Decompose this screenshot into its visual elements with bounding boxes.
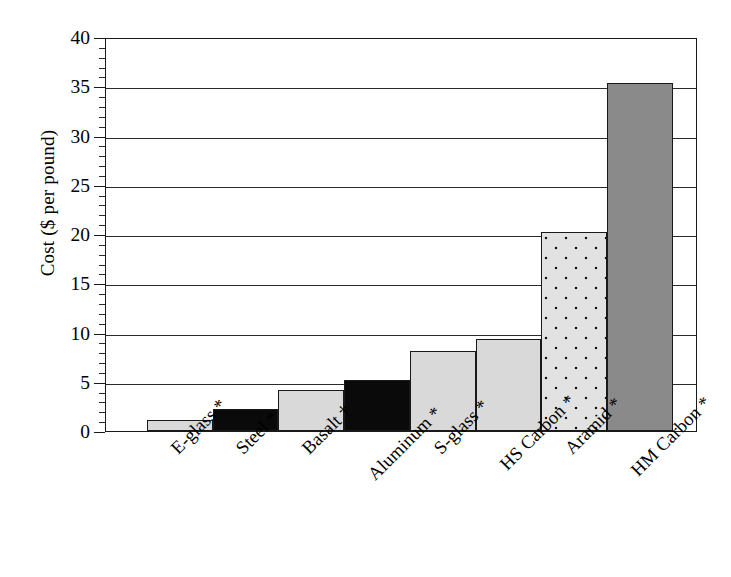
y-tick-major bbox=[94, 334, 105, 335]
y-tick-major bbox=[94, 432, 105, 433]
y-tick-major bbox=[94, 137, 105, 138]
y-tick-label: 0 bbox=[44, 422, 90, 442]
y-tick-label: 20 bbox=[44, 225, 90, 245]
bar bbox=[213, 409, 279, 431]
y-tick-label: 15 bbox=[44, 274, 90, 294]
bar bbox=[541, 232, 607, 431]
y-tick-label: 25 bbox=[44, 176, 90, 196]
y-tick-label: 35 bbox=[44, 77, 90, 97]
y-tick-major bbox=[94, 284, 105, 285]
bar-series bbox=[106, 39, 696, 431]
y-tick-major bbox=[94, 186, 105, 187]
y-tick-label: 30 bbox=[44, 127, 90, 147]
y-tick-label: 5 bbox=[44, 373, 90, 393]
y-tick-major bbox=[94, 38, 105, 39]
bar bbox=[344, 380, 410, 431]
y-tick-label: 10 bbox=[44, 324, 90, 344]
y-tick-label: 40 bbox=[44, 28, 90, 48]
bar bbox=[278, 390, 344, 431]
bar bbox=[147, 420, 213, 431]
bar bbox=[410, 351, 476, 431]
y-tick-major bbox=[94, 235, 105, 236]
plot-area bbox=[105, 38, 697, 432]
y-tick-major bbox=[94, 87, 105, 88]
bar bbox=[476, 339, 542, 431]
bar-chart-figure: Cost ($ per pound) 0510152025303540 E-gl… bbox=[0, 0, 731, 577]
y-tick-major bbox=[94, 383, 105, 384]
bar bbox=[607, 83, 673, 431]
